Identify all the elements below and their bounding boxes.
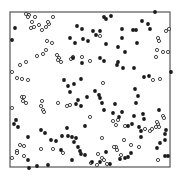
- open-data-point: [129, 143, 132, 146]
- open-data-point: [114, 123, 117, 126]
- filled-data-point: [166, 154, 170, 158]
- filled-data-point: [16, 125, 20, 129]
- filled-data-point: [26, 135, 30, 139]
- filled-data-point: [120, 110, 124, 114]
- filled-data-point: [158, 141, 162, 145]
- open-data-point: [119, 153, 122, 156]
- filled-data-point: [111, 111, 115, 115]
- filled-data-point: [100, 101, 104, 105]
- filled-data-point: [12, 122, 16, 126]
- filled-data-point: [132, 66, 136, 70]
- filled-data-point: [104, 42, 108, 46]
- filled-data-point: [75, 24, 79, 28]
- open-data-point: [22, 154, 25, 157]
- filled-data-point: [74, 136, 78, 140]
- open-data-point: [122, 138, 125, 141]
- filled-data-point: [74, 102, 78, 106]
- filled-data-point: [71, 56, 75, 60]
- filled-data-point: [134, 101, 138, 105]
- filled-data-point: [121, 66, 125, 70]
- filled-data-point: [115, 63, 119, 67]
- open-data-point: [137, 145, 140, 148]
- open-data-point: [26, 15, 29, 18]
- filled-data-point: [140, 19, 144, 23]
- filled-data-point: [70, 135, 74, 139]
- filled-data-point: [104, 150, 108, 154]
- open-data-point: [22, 95, 25, 98]
- filled-data-point: [153, 10, 157, 14]
- filled-data-point: [147, 74, 151, 78]
- open-data-point: [10, 156, 13, 159]
- filled-data-point: [79, 77, 83, 81]
- filled-data-point: [155, 146, 159, 150]
- open-data-point: [88, 59, 91, 62]
- filled-data-point: [134, 28, 138, 32]
- open-data-point: [26, 78, 29, 81]
- open-data-point: [40, 28, 43, 31]
- filled-data-point: [62, 78, 66, 82]
- filled-data-point: [68, 36, 72, 40]
- filled-data-point: [133, 87, 137, 91]
- filled-data-point: [81, 37, 85, 41]
- filled-data-point: [139, 135, 143, 139]
- filled-data-point: [109, 14, 113, 18]
- filled-data-point: [126, 124, 130, 128]
- filled-data-point: [46, 163, 50, 167]
- open-data-point: [96, 152, 99, 155]
- open-data-point: [33, 15, 36, 18]
- open-data-point: [39, 147, 42, 150]
- filled-data-point: [83, 124, 87, 128]
- filled-data-point: [54, 139, 58, 143]
- open-data-point: [158, 77, 161, 80]
- plot-frame: [10, 12, 170, 167]
- open-circle-series: [10, 12, 170, 166]
- filled-data-point: [120, 27, 124, 31]
- open-data-point: [100, 136, 103, 139]
- filled-data-point: [91, 29, 95, 33]
- open-data-point: [164, 29, 167, 32]
- filled-data-point: [43, 131, 47, 135]
- open-data-point: [51, 15, 54, 18]
- filled-data-point: [93, 89, 97, 93]
- filled-data-point: [80, 61, 84, 65]
- filled-data-point: [102, 59, 106, 63]
- filled-data-point: [66, 134, 70, 138]
- filled-data-point: [65, 126, 69, 130]
- open-data-point: [46, 20, 49, 23]
- open-data-point: [154, 55, 157, 58]
- open-data-point: [24, 60, 27, 63]
- open-data-point: [155, 48, 158, 51]
- filled-data-point: [132, 114, 136, 118]
- filled-data-point: [80, 27, 84, 31]
- open-data-point: [102, 158, 105, 161]
- open-data-point: [10, 70, 13, 73]
- filled-data-point: [94, 33, 98, 37]
- filled-data-point: [72, 140, 76, 144]
- filled-data-point: [123, 50, 127, 54]
- open-data-point: [39, 104, 42, 107]
- open-data-point: [61, 151, 64, 154]
- filled-data-point: [98, 29, 102, 33]
- open-data-point: [151, 78, 154, 81]
- filled-data-point: [59, 148, 63, 152]
- open-data-point: [10, 106, 13, 109]
- open-data-point: [167, 27, 170, 30]
- open-data-point: [29, 26, 32, 29]
- filled-data-point: [68, 90, 72, 94]
- open-data-point: [56, 58, 59, 61]
- open-data-point: [101, 81, 104, 84]
- open-data-point: [35, 54, 38, 57]
- filled-data-point: [66, 84, 70, 88]
- filled-data-point: [104, 17, 108, 21]
- open-data-point: [45, 39, 48, 42]
- open-data-point: [88, 115, 91, 118]
- open-data-point: [22, 144, 25, 147]
- filled-data-point: [139, 129, 143, 133]
- open-data-point: [20, 77, 23, 80]
- open-data-point: [156, 158, 159, 161]
- open-data-point: [166, 50, 169, 53]
- open-data-point: [155, 120, 158, 123]
- filled-data-point: [39, 128, 43, 132]
- filled-data-point: [116, 45, 120, 49]
- filled-data-point: [126, 155, 130, 159]
